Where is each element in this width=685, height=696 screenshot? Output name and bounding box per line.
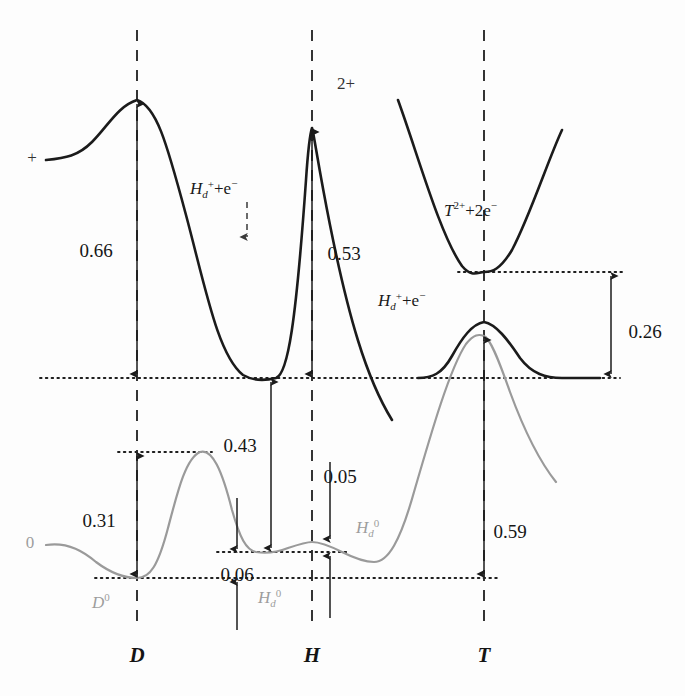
value-0-66: 0.66 — [79, 240, 112, 261]
label-hd-cation-electron-left: Hd++e− — [189, 177, 237, 200]
label-hd-cation-electron-right: Hd++e− — [377, 289, 425, 312]
value-0-31: 0.31 — [82, 510, 115, 531]
label-hd-cation-electron-left-rest-sup: − — [231, 177, 237, 189]
cation-curve-group — [46, 100, 600, 420]
axis-label-H: H — [303, 643, 321, 667]
label-tritium-rest-sup: − — [491, 199, 497, 211]
value-0-59: 0.59 — [493, 521, 526, 542]
value-0-43: 0.43 — [223, 435, 256, 456]
label-neutral-zero: 0 — [26, 533, 35, 552]
label-neutral-Hd0-lower: Hd0 — [257, 587, 282, 609]
label-neutral-Hd0-lower-sup: 0 — [276, 587, 282, 599]
value-0-06: 0.06 — [220, 564, 253, 585]
cation-curve-segment-t2plus — [398, 100, 562, 274]
label-tritium-rest: +2e — [465, 201, 491, 220]
neutral-curve-group — [46, 335, 556, 578]
label-neutral-Hd0-upper: Hd0 — [355, 517, 380, 539]
label-hd-cation-electron-right-rest-sup: − — [419, 289, 425, 301]
axis-label-D: D — [128, 643, 144, 667]
species-labels: + 2+ 0 Hd++e− Hd++e− T2++2e− D0 — [26, 74, 497, 612]
energy-diagram-figure: 0.66 0.53 0.26 0.31 0.43 0.06 0.05 0.59 … — [0, 0, 685, 696]
label-neutral-D0-sup: 0 — [104, 591, 110, 603]
label-neutral-D0-base: D — [91, 593, 105, 612]
label-neutral-Hd0-upper-sup: 0 — [374, 517, 380, 529]
diagram-canvas: 0.66 0.53 0.26 0.31 0.43 0.06 0.05 0.59 … — [0, 0, 685, 696]
value-0-26: 0.26 — [628, 321, 661, 342]
axis-label-T: T — [478, 643, 492, 667]
label-hd-cation-electron-right-rest: +e — [402, 291, 419, 310]
neutral-curve-main — [46, 335, 556, 578]
energy-level-lines — [40, 272, 622, 578]
value-0-05: 0.05 — [323, 466, 356, 487]
value-0-53: 0.53 — [327, 243, 360, 264]
vertical-axis-lines — [137, 30, 484, 630]
label-hd-cation-electron-left-rest: +e — [214, 179, 231, 198]
label-cation-plus: + — [27, 148, 37, 167]
bottom-axis-labels: D H T — [128, 643, 491, 667]
label-tritium-dication-electrons: T2++2e− — [444, 199, 497, 220]
cation-curve-segment-right — [418, 322, 600, 378]
label-cation-2plus: 2+ — [337, 74, 355, 93]
label-neutral-D0: D0 — [91, 591, 110, 612]
label-tritium-sup: 2+ — [453, 199, 465, 211]
